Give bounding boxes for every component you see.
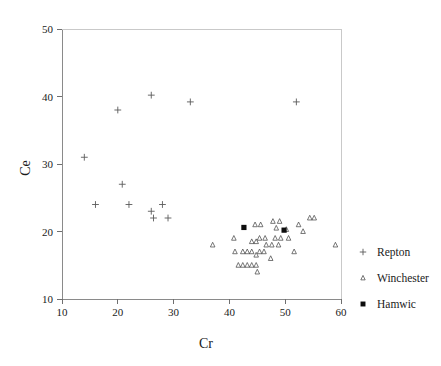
chart-canvas: 102030405060 1020304050 ReptonWinchester… [0,0,441,366]
series-winchester [210,215,337,274]
marker-triangle [301,229,306,234]
marker-triangle [277,219,282,224]
legend-item-hamwic: Hamwic [361,298,416,310]
marker-plus [187,99,194,106]
marker-triangle [240,249,245,254]
marker-triangle [264,242,269,247]
y-tick-label: 30 [42,158,54,170]
marker-plus [81,154,88,161]
marker-triangle [240,263,245,268]
marker-triangle [249,263,254,268]
marker-triangle [263,236,268,241]
marker-triangle [257,249,262,254]
legend-label: Winchester [377,272,429,284]
y-tick-label: 20 [42,226,54,238]
marker-triangle [262,249,267,254]
marker-square [361,302,366,307]
series-hamwic [241,225,286,233]
y-axis-ticks: 1020304050 [42,23,62,305]
marker-plus [119,181,126,188]
scatter-plot-figure: 102030405060 1020304050 ReptonWinchester… [0,0,441,366]
marker-triangle [257,236,262,241]
legend-label: Repton [377,246,410,259]
x-tick-label: 40 [224,306,236,318]
marker-triangle [236,263,241,268]
x-tick-label: 50 [280,306,292,318]
marker-triangle [271,219,276,224]
marker-plus [360,249,366,255]
marker-triangle [312,215,317,220]
y-tick-label: 10 [42,293,54,305]
x-tick-label: 20 [112,306,124,318]
y-tick-label: 40 [42,91,54,103]
y-tick-label: 50 [42,23,54,35]
marker-plus [114,107,121,114]
marker-plus [159,201,166,208]
marker-triangle [276,242,281,247]
marker-triangle [245,249,250,254]
marker-triangle [296,222,301,227]
chart-legend: ReptonWinchesterHamwic [360,246,429,310]
legend-label: Hamwic [377,298,416,310]
marker-triangle [249,239,254,244]
marker-square [241,225,246,230]
marker-triangle [361,275,365,279]
marker-triangle [232,236,237,241]
marker-plus [92,201,99,208]
axes [62,29,341,299]
marker-plus [293,99,300,106]
marker-triangle [258,222,263,227]
marker-plus [126,201,133,208]
y-axis-title: Ce [18,160,33,176]
marker-triangle [255,269,260,274]
marker-triangle [274,225,279,230]
marker-triangle [254,263,259,268]
legend-item-repton: Repton [360,246,411,259]
marker-triangle [270,242,275,247]
marker-triangle [268,256,273,261]
marker-plus [148,92,155,99]
marker-triangle [233,249,238,254]
marker-triangle [249,249,254,254]
data-points [81,92,338,274]
marker-triangle [286,236,291,241]
marker-plus [165,215,172,222]
marker-triangle [278,236,283,241]
x-axis-title: Cr [199,336,213,351]
marker-triangle [210,242,215,247]
marker-triangle [273,236,278,241]
legend-item-winchester: Winchester [361,272,429,284]
marker-triangle [253,222,258,227]
marker-plus [150,215,157,222]
marker-triangle [292,249,297,254]
marker-square [281,228,286,233]
marker-triangle [333,242,338,247]
marker-triangle [245,263,250,268]
series-repton [81,92,300,222]
marker-plus [148,208,155,215]
x-tick-label: 60 [336,306,348,318]
x-tick-label: 10 [57,306,69,318]
x-tick-label: 30 [168,306,180,318]
x-axis-ticks: 102030405060 [57,299,348,318]
marker-triangle [307,215,312,220]
